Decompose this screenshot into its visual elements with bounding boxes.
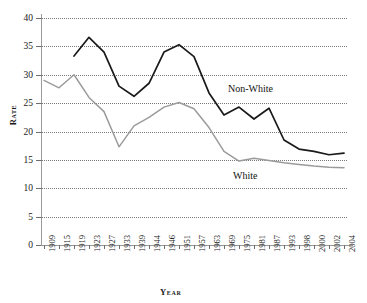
x-tick-mark (239, 245, 240, 249)
x-tick-label: 2004 (348, 235, 357, 252)
y-tick-label: 40 (0, 13, 33, 23)
x-tick-mark (59, 245, 60, 249)
x-tick-mark (149, 245, 150, 249)
series-line-white (44, 75, 344, 168)
y-tick-label: 10 (0, 183, 33, 193)
x-tick-mark (314, 245, 315, 249)
x-tick-mark (119, 245, 120, 249)
series-label-non-white: Non-White (228, 83, 273, 94)
plot-area (41, 18, 347, 245)
x-tick-mark (269, 245, 270, 249)
series-lines (41, 18, 347, 245)
x-tick-mark (284, 245, 285, 249)
x-tick-mark (179, 245, 180, 249)
x-tick-mark (164, 245, 165, 249)
y-tick-label: 5 (0, 212, 33, 222)
x-tick-mark (104, 245, 105, 249)
x-tick-mark (44, 245, 45, 249)
y-axis-title: Rate (8, 93, 18, 137)
x-tick-mark (224, 245, 225, 249)
y-tick-label: 0 (0, 240, 33, 250)
x-tick-mark (89, 245, 90, 249)
x-tick-mark (299, 245, 300, 249)
x-tick-mark (134, 245, 135, 249)
x-tick-mark (74, 245, 75, 249)
x-tick-mark (194, 245, 195, 249)
y-tick-mark (36, 245, 41, 246)
y-tick-label: 30 (0, 70, 33, 80)
x-tick-mark (254, 245, 255, 249)
series-label-white: White (233, 170, 257, 181)
y-tick-label: 15 (0, 155, 33, 165)
x-tick-mark (209, 245, 210, 249)
chart-figure: 0510152025303540 19091915191919231927193… (0, 0, 367, 303)
x-tick-mark (344, 245, 345, 249)
y-tick-label: 35 (0, 41, 33, 51)
x-axis-title: Year (160, 287, 182, 297)
x-tick-mark (329, 245, 330, 249)
